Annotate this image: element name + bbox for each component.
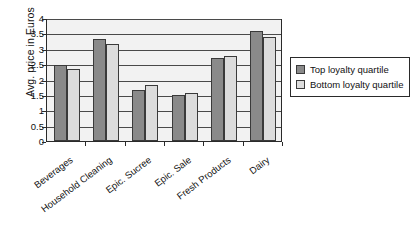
bar [263, 37, 276, 141]
y-axis-tick-mark [42, 127, 46, 128]
x-axis-label: Household Cleaning [39, 154, 114, 214]
y-axis-tick-label: 2.5 [4, 60, 44, 70]
x-axis-tick-mark [85, 142, 86, 146]
y-axis-tick-mark [42, 34, 46, 35]
y-axis-tick-mark [42, 81, 46, 82]
plot-area [46, 19, 282, 142]
legend-swatch-icon [296, 65, 305, 74]
bar [250, 31, 263, 141]
bar [185, 93, 198, 141]
x-axis-tick-mark [125, 142, 126, 146]
bar [106, 44, 119, 141]
y-axis-tick-label: 0 [4, 137, 44, 147]
bar [172, 95, 185, 141]
legend-swatch-icon [296, 80, 305, 89]
y-axis-tick-mark [42, 96, 46, 97]
bar [211, 58, 224, 141]
legend-item-label: Top loyalty quartile [310, 64, 389, 75]
x-axis-tick-mark [282, 142, 283, 146]
y-axis-tick-mark [42, 111, 46, 112]
x-axis-tick-mark [203, 142, 204, 146]
legend-item: Top loyalty quartile [296, 62, 403, 77]
bar-chart: Avg. price in Euros 00.511.522.533.54 Be… [0, 0, 418, 244]
y-axis-tick-mark [42, 19, 46, 20]
x-axis-tick-mark [243, 142, 244, 146]
y-axis-tick-label: 3.5 [4, 29, 44, 39]
bars-layer [47, 20, 281, 141]
y-axis-tick-mark [42, 142, 46, 143]
bar [224, 56, 237, 141]
x-axis-tick-mark [164, 142, 165, 146]
bar [67, 69, 80, 141]
bar [145, 85, 158, 141]
x-axis-label: Dairy [247, 154, 271, 176]
y-axis-tick-mark [42, 65, 46, 66]
y-axis-tick-label: 1.5 [4, 91, 44, 101]
legend-item-label: Bottom loyalty quartile [310, 79, 403, 90]
bar [93, 39, 106, 141]
y-axis-tick-label: 4 [4, 14, 44, 24]
legend: Top loyalty quartile Bottom loyalty quar… [290, 57, 410, 97]
y-axis-tick-label: 3 [4, 45, 44, 55]
y-axis-tick-label: 0.5 [4, 122, 44, 132]
legend-item: Bottom loyalty quartile [296, 77, 403, 92]
y-axis-tick-label: 2 [4, 76, 44, 86]
bar [54, 65, 67, 141]
bar [132, 90, 145, 141]
y-axis-tick-label: 1 [4, 106, 44, 116]
y-axis-tick-mark [42, 50, 46, 51]
